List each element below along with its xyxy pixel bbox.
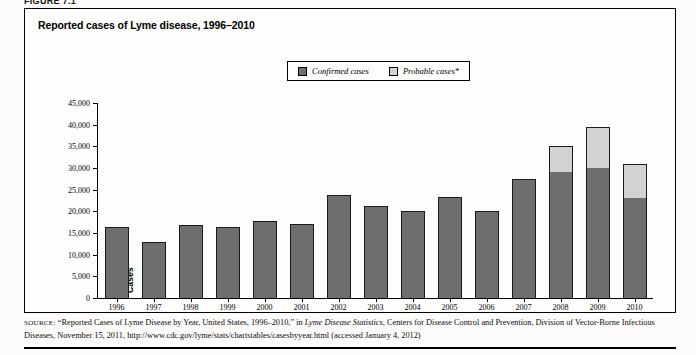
x-axis-label-2006: 2006 (479, 303, 495, 312)
bar-2010[interactable] (623, 103, 647, 298)
bar-segment-confirmed (364, 206, 388, 298)
y-axis-tick-label: 0 (86, 294, 90, 303)
x-axis-tick (524, 298, 525, 302)
bar-1998[interactable] (179, 103, 203, 298)
x-axis-tick (154, 298, 155, 302)
x-axis-label-2005: 2005 (442, 303, 458, 312)
bar-segment-probable (549, 146, 573, 172)
x-axis-label-2002: 2002 (331, 303, 347, 312)
plot-area: Cases 05,00010,00015,00020,00025,00030,0… (97, 103, 653, 312)
x-axis-label-1996: 1996 (109, 303, 125, 312)
x-axis-tick (302, 298, 303, 302)
bottom-divider (24, 347, 676, 349)
bar-2005[interactable] (438, 103, 462, 298)
x-axis-label-2000: 2000 (257, 303, 273, 312)
y-axis-tick-label: 30,000 (68, 164, 90, 173)
bar-2001[interactable] (290, 103, 314, 298)
source-note: SOURCE: “Reported Cases of Lyme Disease … (24, 317, 676, 341)
bar-2008[interactable] (549, 103, 573, 298)
y-axis-tick (93, 211, 97, 212)
bar-segment-confirmed (623, 198, 647, 298)
x-axis-label-2003: 2003 (368, 303, 384, 312)
legend-label-probable: Probable cases* (403, 66, 459, 76)
chart-title: Reported cases of Lyme disease, 1996–201… (38, 19, 255, 31)
bar-segment-confirmed (290, 224, 314, 298)
x-axis-tick (635, 298, 636, 302)
bar-1999[interactable] (216, 103, 240, 298)
chart-legend: Confirmed cases Probable cases* (287, 61, 470, 81)
bar-segment-confirmed (438, 197, 462, 298)
page-background: FIGURE 7.1 Reported cases of Lyme diseas… (0, 0, 696, 355)
bar-segment-confirmed (216, 227, 240, 298)
legend-swatch-confirmed-icon (298, 67, 307, 76)
x-axis-label-2008: 2008 (553, 303, 569, 312)
bar-2003[interactable] (364, 103, 388, 298)
x-axis-tick (487, 298, 488, 302)
bar-segment-confirmed (512, 179, 536, 298)
source-prefix: SOURCE: (24, 319, 56, 327)
x-axis-tick (228, 298, 229, 302)
bar-2007[interactable] (512, 103, 536, 298)
bar-2002[interactable] (327, 103, 351, 298)
legend-label-confirmed: Confirmed cases (312, 66, 369, 76)
bar-2006[interactable] (475, 103, 499, 298)
x-axis-tick (191, 298, 192, 302)
bar-segment-confirmed (586, 168, 610, 298)
bar-segment-confirmed (253, 221, 277, 298)
bar-2009[interactable] (586, 103, 610, 298)
x-axis-tick (117, 298, 118, 302)
bar-segment-probable (586, 127, 610, 168)
x-axis-tick (561, 298, 562, 302)
y-axis-tick (93, 276, 97, 277)
x-axis-tick (413, 298, 414, 302)
x-axis-tick (265, 298, 266, 302)
figure-label: FIGURE 7.1 (24, 0, 76, 5)
bar-segment-confirmed (549, 172, 573, 298)
y-axis-tick (93, 255, 97, 256)
y-axis-tick-label: 15,000 (68, 229, 90, 238)
y-axis-tick (93, 233, 97, 234)
y-axis-tick-label: 45,000 (68, 99, 90, 108)
bar-segment-confirmed (142, 242, 166, 298)
bar-segment-confirmed (105, 227, 129, 299)
bar-segment-confirmed (179, 225, 203, 298)
y-axis-tick-label: 20,000 (68, 207, 90, 216)
bar-series-container (98, 103, 653, 298)
legend-swatch-probable-icon (389, 67, 398, 76)
x-axis-label-2010: 2010 (627, 303, 643, 312)
x-axis-tick (450, 298, 451, 302)
x-axis-tick (376, 298, 377, 302)
y-axis-tick-label: 10,000 (68, 250, 90, 259)
bar-1996[interactable] (105, 103, 129, 298)
y-axis-tick-label: 5,000 (72, 272, 90, 281)
y-axis-tick-label: 35,000 (68, 142, 90, 151)
x-axis-label-2007: 2007 (516, 303, 532, 312)
bar-segment-confirmed (475, 211, 499, 298)
bar-segment-confirmed (401, 211, 425, 298)
x-axis-label-2009: 2009 (590, 303, 606, 312)
source-line-1: “Reported Cases of Lyme Disease by Year,… (56, 318, 305, 327)
bar-1997[interactable] (142, 103, 166, 298)
y-axis-tick (93, 190, 97, 191)
x-axis-tick (598, 298, 599, 302)
bar-2000[interactable] (253, 103, 277, 298)
x-axis-label-1997: 1997 (146, 303, 162, 312)
x-axis-tick (339, 298, 340, 302)
y-axis-tick (93, 298, 97, 299)
legend-item-probable[interactable]: Probable cases* (389, 66, 459, 76)
bar-segment-confirmed (327, 195, 351, 298)
bar-segment-probable (623, 164, 647, 199)
bar-2004[interactable] (401, 103, 425, 298)
y-axis-tick-label: 40,000 (68, 120, 90, 129)
legend-item-confirmed[interactable]: Confirmed cases (298, 66, 369, 76)
source-italic-title: Lyme Disease Statistics (305, 318, 383, 327)
y-axis-tick (93, 146, 97, 147)
x-axis-label-2001: 2001 (294, 303, 310, 312)
y-axis-tick (93, 103, 97, 104)
y-axis-tick (93, 125, 97, 126)
x-axis-label-1998: 1998 (183, 303, 199, 312)
y-axis-tick (93, 168, 97, 169)
x-axis-label-2004: 2004 (405, 303, 421, 312)
x-axis-label-1999: 1999 (220, 303, 236, 312)
y-axis-tick-label: 25,000 (68, 185, 90, 194)
